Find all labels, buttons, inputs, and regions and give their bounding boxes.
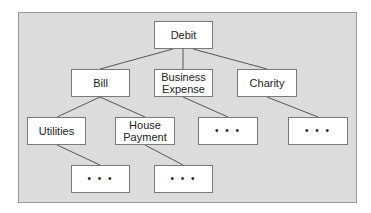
node-charity-more: • • • bbox=[288, 117, 348, 145]
node-house-payment: House Payment bbox=[115, 117, 175, 145]
edge-bill-house-payment bbox=[100, 97, 145, 117]
ellipsis-label: • • • bbox=[87, 173, 113, 185]
node-debit: Debit bbox=[154, 21, 213, 49]
node-house-payment-more: • • • bbox=[154, 165, 213, 193]
node-label: Debit bbox=[171, 29, 197, 41]
ellipsis-label: • • • bbox=[170, 173, 196, 185]
edge-business-expense-more bbox=[183, 97, 228, 117]
edge-debit-charity bbox=[193, 49, 267, 69]
edge-debit-bill bbox=[100, 49, 173, 69]
node-business-expense-more: • • • bbox=[198, 117, 258, 145]
ellipsis-label: • • • bbox=[305, 125, 331, 137]
node-business-expense: Business Expense bbox=[154, 69, 213, 97]
edge-charity-more bbox=[267, 97, 318, 117]
node-label: Charity bbox=[250, 77, 285, 89]
node-label: Bill bbox=[93, 77, 108, 89]
edge-house-payment-more bbox=[145, 145, 183, 165]
node-label-line1: House bbox=[129, 119, 161, 131]
edge-utilities-more bbox=[57, 145, 100, 165]
node-label: Utilities bbox=[39, 125, 74, 137]
node-utilities-more: • • • bbox=[71, 165, 130, 193]
node-charity: Charity bbox=[237, 69, 297, 97]
node-label-line1: Business bbox=[161, 71, 206, 83]
node-utilities: Utilities bbox=[27, 117, 86, 145]
edge-bill-utilities bbox=[57, 97, 100, 117]
node-bill: Bill bbox=[71, 69, 130, 97]
node-label-line2: Payment bbox=[123, 131, 166, 143]
node-label-line2: Expense bbox=[162, 83, 205, 95]
ellipsis-label: • • • bbox=[215, 125, 241, 137]
